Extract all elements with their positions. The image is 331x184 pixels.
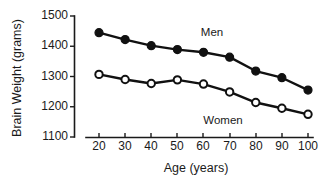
data-point xyxy=(174,76,181,83)
x-tick-label-30: 30 xyxy=(118,139,132,153)
data-point xyxy=(121,36,129,44)
x-tick-label-60: 60 xyxy=(196,139,210,153)
y-axis-label: Brain Weight (grams) xyxy=(10,19,24,137)
brain-weight-vs-age-chart: Brain Weight (grams) 1500 1400 1300 1200… xyxy=(0,0,331,184)
data-point xyxy=(147,42,155,50)
x-tick-label-80: 80 xyxy=(249,139,263,153)
x-axis-label: Age (years) xyxy=(164,161,229,175)
data-point xyxy=(226,88,233,95)
y-tick-label-1100: 1100 xyxy=(42,129,68,143)
data-point xyxy=(278,74,286,82)
series-label-men: Men xyxy=(201,26,223,38)
y-tick-label-1400: 1400 xyxy=(41,38,68,52)
x-tick-label-90: 90 xyxy=(275,139,289,153)
y-tick-label-1500: 1500 xyxy=(41,8,68,22)
data-point xyxy=(200,48,208,56)
data-point xyxy=(95,71,102,78)
data-point xyxy=(173,46,181,54)
series-layer xyxy=(95,29,312,118)
x-tick-label-50: 50 xyxy=(170,139,184,153)
data-point xyxy=(200,80,207,87)
chart-canvas: Brain Weight (grams) 1500 1400 1300 1200… xyxy=(0,0,331,184)
x-tick-label-20: 20 xyxy=(92,139,106,153)
data-point xyxy=(252,99,259,106)
y-tick-label-1300: 1300 xyxy=(41,69,68,83)
data-point xyxy=(252,67,260,75)
x-tick-label-40: 40 xyxy=(144,139,158,153)
data-point xyxy=(278,105,285,112)
data-point xyxy=(148,80,155,87)
data-point xyxy=(121,76,128,83)
x-tick-label-70: 70 xyxy=(223,139,237,153)
data-point xyxy=(304,111,311,118)
series-label-women: Women xyxy=(203,114,242,126)
x-tick-label-100: 100 xyxy=(298,139,318,153)
data-point xyxy=(304,86,312,94)
data-point xyxy=(226,53,234,61)
data-point xyxy=(95,29,103,37)
y-tick-label-1200: 1200 xyxy=(41,99,68,113)
